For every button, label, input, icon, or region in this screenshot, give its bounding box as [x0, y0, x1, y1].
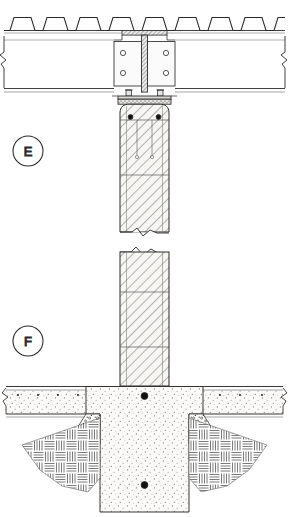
spread-footing — [86, 387, 203, 513]
bolt-hole — [120, 70, 125, 75]
base-plate — [112, 96, 177, 104]
anchor-bolt-left — [125, 90, 133, 96]
break-line-right — [281, 36, 287, 88]
bolt-hole — [163, 50, 168, 55]
rebar-dot — [128, 115, 133, 120]
undisturbed-soil-left — [10, 405, 110, 505]
steel-beam-web — [142, 35, 148, 92]
detail-marker-e[interactable]: E — [13, 136, 43, 166]
rebar-dot — [156, 115, 161, 120]
bolt-hole — [120, 50, 125, 55]
bolt-hole — [163, 70, 168, 75]
anchor-bolt-right — [157, 90, 165, 96]
detail-marker-f-label: F — [24, 334, 32, 349]
undisturbed-soil-right — [179, 405, 279, 505]
splice-plate-right — [148, 42, 176, 87]
structural-detail-drawing: E F — [0, 0, 289, 517]
rebar-dot — [141, 393, 148, 400]
detail-marker-e-label: E — [24, 144, 33, 159]
rebar-dot — [141, 482, 148, 489]
drawing-sheet: E F — [0, 0, 289, 517]
detail-marker-f[interactable]: F — [13, 326, 43, 356]
concrete-column-upper — [120, 104, 169, 236]
splice-plate-left — [114, 42, 142, 87]
break-line-left — [0, 36, 6, 88]
concrete-column-lower — [120, 247, 169, 386]
